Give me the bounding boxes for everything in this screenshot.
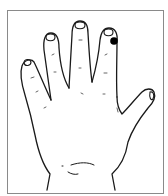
marker-dot (110, 37, 118, 45)
hand-illustration (0, 0, 168, 196)
frame-border (8, 11, 164, 194)
